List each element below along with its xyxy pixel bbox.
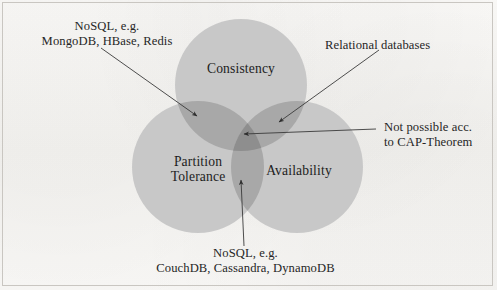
- annotation-right-line2: to CAP-Theorem: [384, 135, 473, 150]
- label-partition-tolerance-line1: Partition: [148, 154, 248, 169]
- annotation-top-right-line1: Relational databases: [325, 38, 430, 53]
- label-availability: Availability: [249, 163, 349, 178]
- annotation-bottom: NoSQL, e.g. CouchDB, Cassandra, DynamoDB: [123, 246, 368, 275]
- annotation-top-left-line1: NoSQL, e.g.: [12, 19, 202, 34]
- label-consistency: Consistency: [191, 61, 291, 76]
- annotation-top-right: Relational databases: [325, 38, 430, 53]
- annotation-right-line1: Not possible acc.: [384, 120, 473, 135]
- cap-theorem-venn-figure: Consistency Partition Tolerance Availabi…: [0, 0, 497, 290]
- annotation-bottom-line1: NoSQL, e.g.: [123, 246, 368, 261]
- annotation-bottom-line2: CouchDB, Cassandra, DynamoDB: [123, 261, 368, 276]
- annotation-top-left-line2: MongoDB, HBase, Redis: [12, 34, 202, 49]
- annotation-right: Not possible acc. to CAP-Theorem: [384, 120, 473, 149]
- label-partition-tolerance-line2: Tolerance: [148, 169, 248, 184]
- label-partition-tolerance: Partition Tolerance: [148, 154, 248, 185]
- annotation-top-left: NoSQL, e.g. MongoDB, HBase, Redis: [12, 19, 202, 48]
